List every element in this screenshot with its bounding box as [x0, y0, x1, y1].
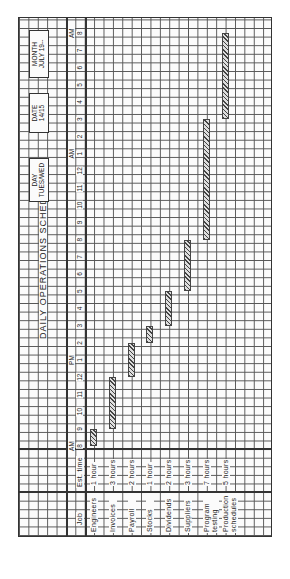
hour-tick: 1	[76, 151, 83, 157]
est-time-column-header: Est. time	[76, 456, 84, 488]
hour-tick: 3	[76, 116, 83, 122]
hour-tick: 6	[76, 65, 83, 71]
task-bar	[146, 326, 153, 343]
header-divider	[66, 18, 68, 536]
time-column-divider	[19, 449, 271, 451]
task-est-time: 3 hours	[184, 459, 192, 486]
task-est-time: 1 hour	[146, 462, 154, 486]
hour-tick: 10	[76, 201, 83, 210]
date-field: DATE 14/15	[29, 93, 49, 133]
column-header-divider	[85, 18, 87, 536]
period-marker: AM	[68, 148, 75, 160]
date-value: 14/15	[38, 94, 45, 132]
task-job-label: Payroll	[128, 493, 136, 533]
task-est-time: 3 hours	[109, 459, 117, 486]
hour-tick: 5	[76, 288, 83, 294]
task-bar	[222, 33, 229, 119]
day-value: TUES/WED	[38, 159, 45, 201]
hour-tick: 12	[76, 166, 83, 175]
schedule-grid-sheet: DAILY OPERATIONS SCHEDULE DAY TUES/WED D…	[18, 17, 272, 537]
hour-tick: 8	[76, 237, 83, 243]
hour-tick: 8	[76, 443, 83, 449]
job-column-header: Job	[76, 512, 84, 526]
hour-tick: 7	[76, 48, 83, 54]
hour-tick: 11	[76, 390, 83, 399]
hour-tick: 7	[76, 254, 83, 260]
hour-tick: 1	[76, 357, 83, 363]
task-job-label: Invoices	[109, 493, 117, 533]
task-bar	[90, 429, 97, 446]
period-marker: AM	[68, 27, 75, 39]
task-bar	[109, 377, 116, 429]
task-job-label: Suppliers	[184, 493, 192, 533]
task-est-time: 2 hours	[165, 459, 173, 486]
hour-tick: 6	[76, 271, 83, 277]
task-job-label: Program testing	[203, 493, 219, 533]
hour-tick: 8	[76, 30, 83, 36]
hour-tick: 5	[76, 82, 83, 88]
task-bar	[128, 343, 135, 377]
task-est-time: 2 hours	[128, 459, 136, 486]
month-label: MONTH	[31, 31, 38, 77]
task-job-label: Stocks	[146, 493, 154, 533]
rotated-form-stage: DAILY OPERATIONS SCHEDULE DAY TUES/WED D…	[0, 0, 290, 579]
date-label: DATE	[31, 94, 38, 132]
hour-tick: 4	[76, 99, 83, 105]
hour-tick: 4	[76, 306, 83, 312]
month-value: JULY 19--	[38, 31, 45, 77]
task-job-label: Dividends	[165, 493, 173, 533]
hour-tick: 9	[76, 220, 83, 226]
task-job-label: Production schedules	[222, 493, 238, 533]
hour-tick: 11	[76, 184, 83, 193]
hour-tick: 2	[76, 340, 83, 346]
task-bar	[184, 240, 191, 292]
hour-tick: 2	[76, 134, 83, 140]
task-bar	[203, 119, 210, 239]
hour-tick: 12	[76, 373, 83, 382]
day-field: DAY TUES/WED	[29, 158, 49, 202]
task-est-time: 1 hour	[90, 462, 98, 486]
month-field: MONTH JULY 19--	[29, 30, 49, 78]
hour-tick: 10	[76, 407, 83, 416]
day-label: DAY	[31, 159, 38, 201]
task-est-time: 7 hours	[203, 459, 211, 486]
task-est-time: 5 hours	[222, 459, 230, 486]
task-job-label: Engineers	[90, 493, 98, 533]
period-marker: AM	[68, 440, 75, 452]
period-marker: PM	[68, 354, 75, 366]
hour-tick: 9	[76, 426, 83, 432]
hour-tick: 3	[76, 323, 83, 329]
task-bar	[165, 291, 172, 325]
